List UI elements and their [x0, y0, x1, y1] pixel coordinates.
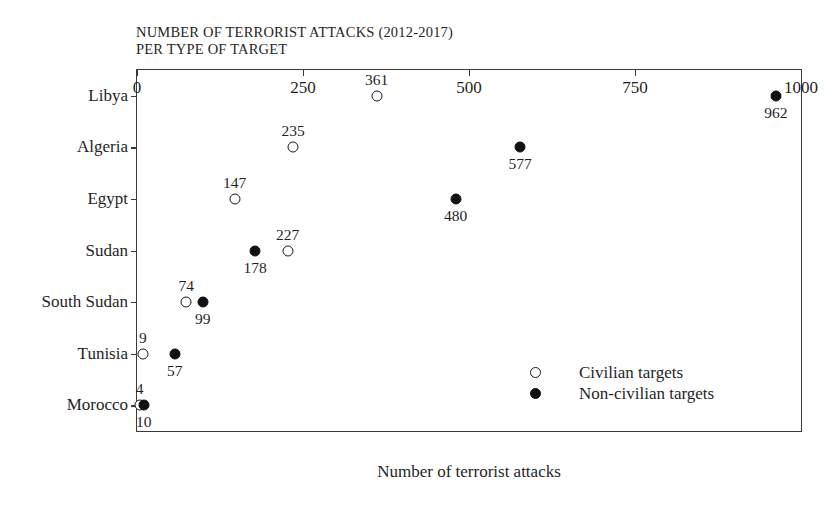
legend-item-non-civilian: Non-civilian targets: [530, 383, 714, 404]
data-label-egypt-noncivilian: 480: [444, 207, 467, 225]
x-tick-label: 250: [290, 78, 316, 98]
data-point-tunisia-noncivilian: [169, 348, 180, 359]
data-point-south-sudan-noncivilian: [197, 297, 208, 308]
legend-label-civilian: Civilian targets: [579, 363, 683, 383]
data-label-tunisia-civilian: 9: [139, 329, 147, 347]
y-tick-mark: [131, 302, 137, 303]
data-label-sudan-civilian: 227: [276, 226, 299, 244]
data-label-sudan-noncivilian: 178: [244, 259, 267, 277]
data-point-algeria-noncivilian: [515, 142, 526, 153]
data-label-south-sudan-civilian: 74: [178, 277, 194, 295]
data-label-libya-civilian: 361: [365, 71, 388, 89]
x-tick-label: 1000: [784, 78, 818, 98]
chart-title: NUMBER OF TERRORIST ATTACKS (2012-2017) …: [136, 24, 756, 58]
y-tick-label: Algeria: [77, 137, 128, 157]
data-point-libya-civilian: [371, 90, 382, 101]
data-point-morocco-noncivilian: [138, 400, 149, 411]
y-tick-label: Tunisia: [78, 344, 128, 364]
data-point-algeria-civilian: [288, 142, 299, 153]
data-label-algeria-noncivilian: 577: [509, 155, 532, 173]
x-tick-mark: [801, 70, 802, 76]
data-label-tunisia-noncivilian: 57: [167, 362, 183, 380]
data-point-south-sudan-civilian: [181, 297, 192, 308]
data-label-egypt-civilian: 147: [223, 174, 246, 192]
y-tick-label: Morocco: [67, 395, 128, 415]
data-point-egypt-noncivilian: [450, 193, 461, 204]
open-circle-icon: [530, 367, 541, 378]
y-tick-label: Libya: [88, 86, 128, 106]
x-tick-label: 750: [622, 78, 648, 98]
data-label-south-sudan-noncivilian: 99: [195, 310, 211, 328]
data-label-morocco-civilian: 4: [136, 380, 144, 398]
x-tick-mark: [137, 70, 138, 76]
data-point-tunisia-civilian: [137, 348, 148, 359]
y-tick-label: Sudan: [86, 241, 129, 261]
data-label-libya-noncivilian: 962: [764, 104, 787, 122]
x-tick-mark: [469, 70, 470, 76]
chart-legend: Civilian targets Non-civilian targets: [530, 362, 714, 404]
y-tick-mark: [131, 147, 137, 148]
data-point-libya-noncivilian: [770, 90, 781, 101]
data-point-sudan-noncivilian: [250, 245, 261, 256]
x-tick-label: 500: [456, 78, 482, 98]
y-tick-label: South Sudan: [42, 292, 128, 312]
x-tick-mark: [303, 70, 304, 76]
y-tick-mark: [131, 251, 137, 252]
x-tick-label: 0: [133, 78, 142, 98]
y-tick-label: Egypt: [87, 189, 128, 209]
legend-item-civilian: Civilian targets: [530, 362, 714, 383]
data-label-algeria-civilian: 235: [281, 122, 304, 140]
filled-circle-icon: [530, 388, 541, 399]
legend-label-non-civilian: Non-civilian targets: [579, 384, 714, 404]
data-point-sudan-civilian: [282, 245, 293, 256]
y-tick-mark: [131, 354, 137, 355]
chart-figure: NUMBER OF TERRORIST ATTACKS (2012-2017) …: [0, 0, 827, 510]
data-label-morocco-noncivilian: 10: [136, 413, 152, 431]
data-point-egypt-civilian: [229, 193, 240, 204]
y-tick-mark: [131, 199, 137, 200]
x-tick-mark: [635, 70, 636, 76]
x-axis-label: Number of terrorist attacks: [136, 462, 802, 482]
